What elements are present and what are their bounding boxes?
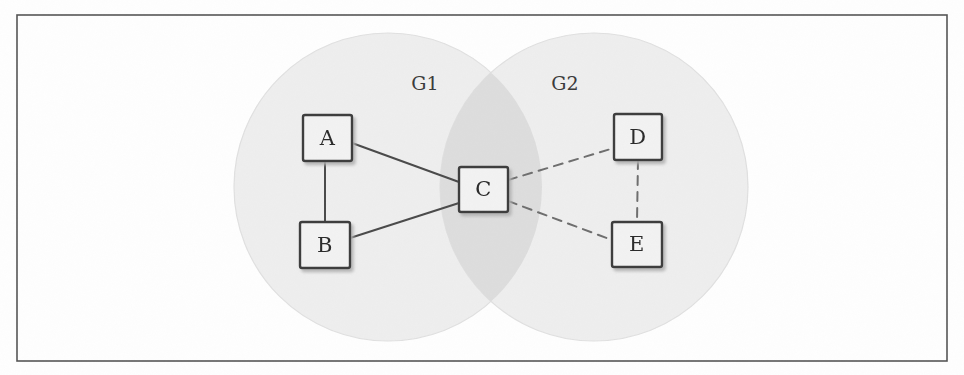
node-c[interactable]: C (459, 167, 508, 212)
node-label: B (317, 233, 333, 257)
node-label: A (319, 126, 336, 150)
node-label: D (629, 125, 646, 149)
node-e[interactable]: E (612, 222, 662, 267)
group-label-g1: G1 (411, 72, 438, 94)
node-d[interactable]: D (614, 114, 662, 160)
node-a[interactable]: A (303, 115, 352, 161)
figure-svg: G1 G2 ABCDE (0, 0, 964, 375)
node-label: C (475, 177, 492, 201)
diagram-canvas: G1 G2 ABCDE (0, 0, 964, 375)
node-label: E (629, 232, 645, 256)
node-b[interactable]: B (300, 222, 350, 268)
group-label-g2: G2 (551, 72, 578, 94)
